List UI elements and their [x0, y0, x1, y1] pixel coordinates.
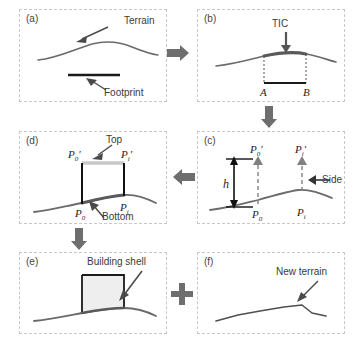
label-p0-d: P0 — [75, 208, 85, 222]
label-p0-prime-c: P0′ — [250, 144, 263, 158]
panel-a: (a) Terrain Footprint — [19, 9, 167, 102]
terrain-curve — [38, 42, 158, 60]
label-p0-c: P0 — [252, 209, 262, 223]
panel-d: (d) P0′ Pi′ — [19, 131, 167, 224]
top-pointer-arrow — [92, 145, 112, 160]
arrow-down-icon — [260, 105, 278, 129]
terrain-pointer-arrow — [76, 27, 108, 43]
label-pi-prime-d: Pi′ — [121, 149, 132, 163]
new-terrain-pointer-arrow — [297, 281, 318, 302]
label-pi-c: Pi — [297, 207, 306, 221]
footprint-label: Footprint — [104, 88, 143, 98]
height-dimension-arrow — [226, 156, 253, 209]
height-label: h — [223, 178, 229, 190]
point-b-label: B — [303, 87, 310, 98]
panel-e: (e) Building shell — [19, 252, 167, 334]
plus-sign-icon — [170, 282, 194, 306]
label-pi-prime-c: Pi′ — [295, 144, 306, 158]
figure-root: (a) Terrain Footprint (b) — [0, 0, 354, 342]
panel-f: (f) New terrain — [197, 252, 345, 334]
side-extrusion-p0 — [253, 156, 263, 204]
tic-segment — [264, 53, 306, 56]
tic-label: TIC — [272, 19, 288, 29]
label-p0-prime-d: P0′ — [68, 149, 81, 163]
bottom-segment — [82, 195, 124, 203]
footprint-pointer-arrow — [86, 78, 106, 90]
new-terrain-curve — [216, 305, 326, 321]
side-extrusion-pi — [297, 156, 307, 191]
new-terrain-label: New terrain — [276, 267, 327, 277]
building-shell-label: Building shell — [87, 257, 146, 267]
top-label: Top — [106, 135, 122, 145]
panel-c: (c) — [197, 131, 345, 224]
tic-pointer-arrow — [281, 32, 291, 53]
arrow-right-icon — [166, 44, 190, 62]
arrow-left-icon — [172, 168, 196, 186]
connector-a-to-b — [166, 44, 190, 62]
terrain-label: Terrain — [124, 16, 155, 26]
connector-b-to-c — [260, 105, 278, 129]
panel-b: (b) TIC A B — [197, 9, 345, 102]
point-a-label: A — [260, 87, 267, 98]
side-label: Side — [322, 175, 342, 185]
connector-e-plus-f — [170, 282, 194, 306]
arrow-down-icon-2 — [70, 227, 88, 251]
connector-c-to-d — [172, 168, 196, 186]
bottom-label: Bottom — [102, 212, 134, 222]
connector-d-to-e — [70, 227, 88, 251]
